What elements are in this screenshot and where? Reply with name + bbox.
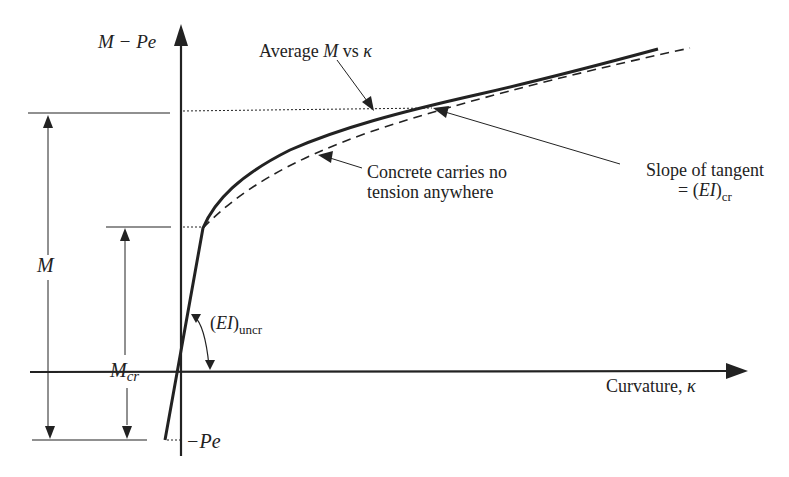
uncr-sub: uncr [239,322,262,337]
M-dimension-label: M [37,255,54,275]
arc-arrow-top-icon [191,314,201,323]
x-axis-label-symbol: κ [687,376,696,396]
tangent-close: ) [716,180,722,200]
Mcr-sub: cr [127,368,140,384]
y-axis-arrow-icon [174,24,188,46]
no-tension-line2: tension anywhere [367,182,507,202]
y-axis [174,24,188,456]
average-leader-line [337,60,370,105]
average-label-suffix: vs [338,41,363,61]
average-moment-curvature-curve [165,49,658,440]
negative-Pe-label: −Pe [186,431,221,451]
tangent-var: EI [699,180,716,200]
average-curve-label: Average M vs κ [259,42,372,60]
tangent-line1: Slope of tangent [626,160,784,180]
average-label-prefix: Average [259,41,323,61]
average-label-var: M [323,41,338,61]
tangent-prefix: = ( [678,180,699,200]
moment-curvature-diagram: M − Pe Average M vs κ Concrete carries n… [0,0,789,477]
no-tension-leader-line [330,158,362,168]
x-axis-label: Curvature, κ [606,377,696,395]
tangent-label: Slope of tangent = (EI)cr [626,160,784,202]
Mcr-dimension-label: Mcr [110,360,139,380]
Mcr-dimension-arrow [120,228,132,439]
arc-arrow-bottom-icon [205,360,215,370]
y-axis-label: M − Pe [98,32,156,51]
diagram-canvas [0,0,789,477]
x-axis-label-text: Curvature, [606,376,687,396]
M-dimension-arrow [43,115,55,439]
no-tension-line1: Concrete carries no [367,162,507,182]
tangent-sub: cr [722,189,732,204]
average-label-symbol: κ [363,41,372,61]
x-axis-arrow-icon [726,363,748,379]
no-tension-label: Concrete carries no tension anywhere [367,162,507,202]
tangent-leader-line [445,112,620,164]
Mcr-main: M [110,359,127,381]
uncr-var: EI [216,313,233,333]
tangent-line2: = (EI)cr [626,180,784,202]
no-tension-leader-arrow-icon [318,151,333,163]
uncracked-stiffness-label: (EI)uncr [210,314,262,332]
reference-lines [28,108,432,440]
uncracked-slope-arc [194,316,209,366]
